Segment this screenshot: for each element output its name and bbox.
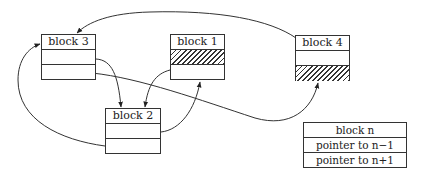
arrow-block1-to-block2: [145, 70, 170, 107]
block-1-label: block 1: [171, 35, 224, 50]
block-1-row-1-hatched: [171, 50, 224, 65]
block-3-label: block 3: [42, 35, 95, 50]
legend-pointer-next: pointer to n+1: [304, 153, 406, 168]
block-2-label: block 2: [106, 109, 160, 124]
block-2: block 2: [105, 108, 161, 154]
block-3: block 3: [41, 34, 96, 80]
block-2-row-1: [106, 124, 160, 139]
legend-title: block n: [304, 123, 406, 138]
block-3-row-2: [42, 65, 95, 80]
block-2-row-2: [106, 139, 160, 154]
block-3-row-1: [42, 50, 95, 65]
legend-block-n: block n pointer to n−1 pointer to n+1: [303, 122, 407, 168]
arrow-block3-to-block2: [96, 59, 121, 107]
block-4-row-1: [296, 51, 349, 66]
block-4-label: block 4: [296, 36, 349, 51]
block-1: block 1: [170, 34, 225, 80]
block-4-row-2-hatched: [296, 66, 349, 81]
legend-pointer-prev: pointer to n−1: [304, 138, 406, 153]
block-4: block 4: [295, 35, 350, 81]
block-1-row-2: [171, 65, 224, 80]
